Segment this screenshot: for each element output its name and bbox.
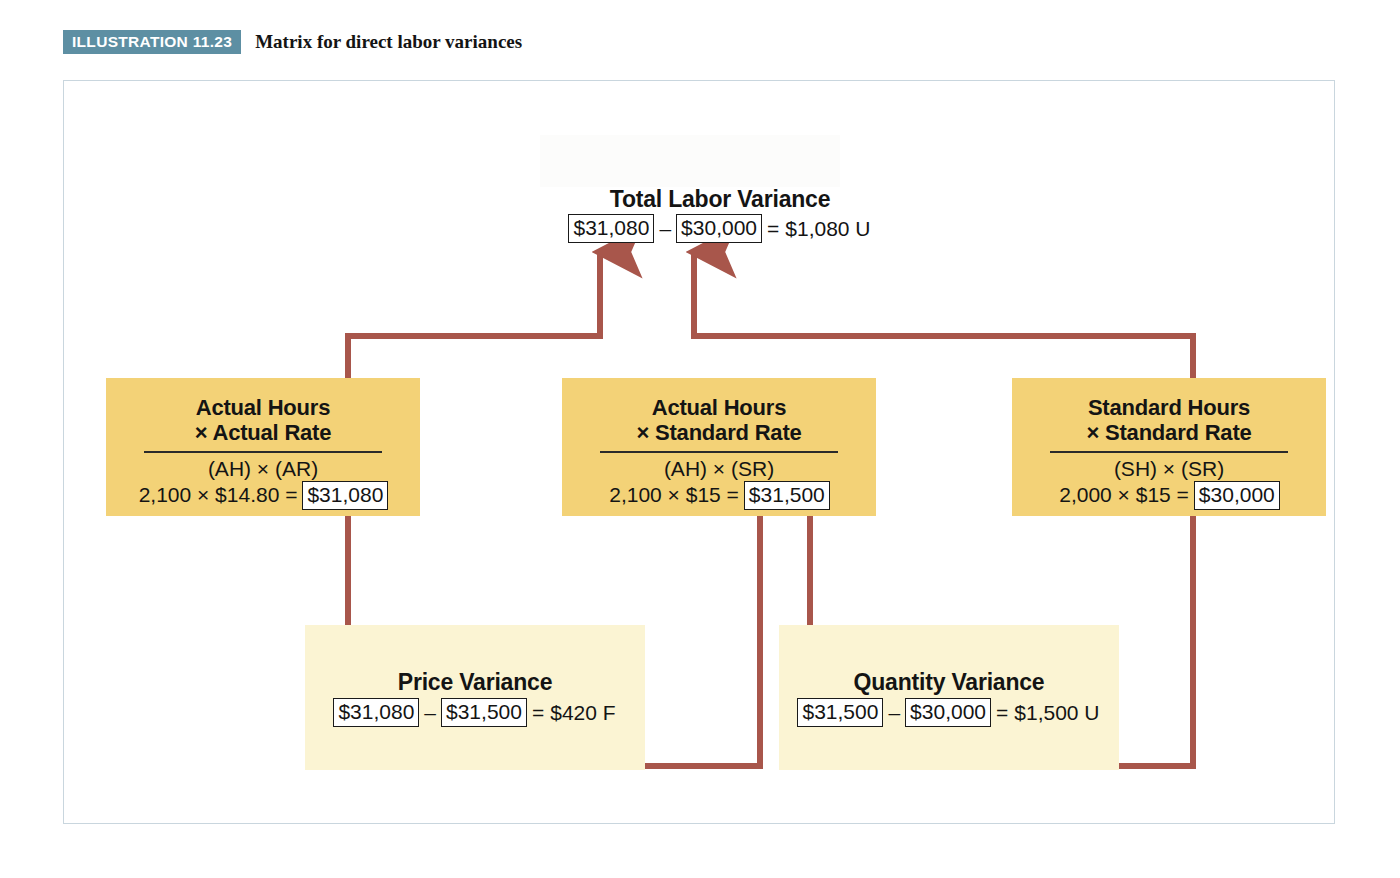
price-equals: = [531,701,545,725]
shsr-calc-value: $30,000 [1194,481,1280,510]
ahsr-calculation: 2,100 × $15 = $31,500 [562,481,876,510]
total-labor-variance-equation: $31,080 – $30,000 = $1,080 U [520,214,920,243]
ahsr-abbreviation: (AH) × (SR) [562,457,876,481]
caption-bar: ILLUSTRATION 11.23 Matrix for direct lab… [63,29,522,55]
total-result: $1,080 U [784,217,871,241]
ahar-calc-prefix: 2,100 × $14.80 = [138,483,299,507]
quantity-variance-title: Quantity Variance [779,669,1119,695]
shsr-abbreviation: (SH) × (SR) [1012,457,1326,481]
shsr-calculation: 2,000 × $15 = $30,000 [1012,481,1326,510]
price-variance-content: Price Variance $31,080 – $31,500 = $420 … [305,669,645,727]
quantity-equals: = [995,701,1009,725]
price-result: $420 F [549,701,616,725]
ahar-calc-value: $31,080 [302,481,388,510]
shsr-calc-prefix: 2,000 × $15 = [1058,483,1190,507]
price-variance-title: Price Variance [305,669,645,695]
quantity-operator: – [887,701,901,725]
quantity-right-value: $30,000 [905,698,991,727]
total-equals: = [766,217,780,241]
shsr-title-line1: Standard Hours [1012,395,1326,420]
quantity-left-value: $31,500 [797,698,883,727]
actual-hours-actual-rate-box: Actual Hours × Actual Rate (AH) × (AR) 2… [106,378,420,516]
total-labor-variance-node: Total Labor Variance $31,080 – $30,000 =… [520,186,920,243]
actual-hours-standard-rate-box: Actual Hours × Standard Rate (AH) × (SR)… [562,378,876,516]
price-right-value: $31,500 [441,698,527,727]
shsr-title-line2: × Standard Rate [1012,420,1326,445]
scan-artifact [540,135,840,187]
ahsr-title-line1: Actual Hours [562,395,876,420]
quantity-variance-box: Quantity Variance $31,500 – $30,000 = $1… [779,625,1119,770]
ahar-divider [144,451,383,453]
ahsr-divider [600,451,839,453]
ahsr-calc-value: $31,500 [744,481,830,510]
quantity-result: $1,500 U [1013,701,1100,725]
price-variance-equation: $31,080 – $31,500 = $420 F [305,698,645,727]
illustration-number-badge: ILLUSTRATION 11.23 [63,30,241,55]
total-operator: – [658,217,672,241]
ahsr-title-line2: × Standard Rate [562,420,876,445]
ahar-calculation: 2,100 × $14.80 = $31,080 [106,481,420,510]
standard-hours-standard-rate-box: Standard Hours × Standard Rate (SH) × (S… [1012,378,1326,516]
price-operator: – [423,701,437,725]
ahar-title-line1: Actual Hours [106,395,420,420]
quantity-variance-equation: $31,500 – $30,000 = $1,500 U [779,698,1119,727]
page-title: Matrix for direct labor variances [255,31,522,53]
ahsr-calc-prefix: 2,100 × $15 = [608,483,740,507]
total-right-value: $30,000 [676,214,762,243]
shsr-divider [1050,451,1289,453]
total-left-value: $31,080 [568,214,654,243]
ahar-abbreviation: (AH) × (AR) [106,457,420,481]
price-left-value: $31,080 [333,698,419,727]
price-variance-box: Price Variance $31,080 – $31,500 = $420 … [305,625,645,770]
total-labor-variance-title: Total Labor Variance [520,186,920,212]
quantity-variance-content: Quantity Variance $31,500 – $30,000 = $1… [779,669,1119,727]
ahar-title-line2: × Actual Rate [106,420,420,445]
